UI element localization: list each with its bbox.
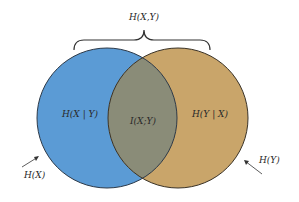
conditional-entropy-y-label: H(Y | X) <box>191 109 228 120</box>
joint-entropy-brace <box>74 30 210 50</box>
arrow-icon <box>22 156 39 167</box>
venn-diagram: H(X,Y) H(X | Y) I(X;Y) H(Y | X) H(X) H(Y… <box>0 0 299 202</box>
mutual-information-label: I(X;Y) <box>129 116 156 126</box>
conditional-entropy-x-label: H(X | Y) <box>61 109 98 120</box>
joint-entropy-label: H(X,Y) <box>128 12 160 22</box>
entropy-y-label: H(Y) <box>258 155 280 165</box>
entropy-x-label: H(X) <box>23 170 46 180</box>
